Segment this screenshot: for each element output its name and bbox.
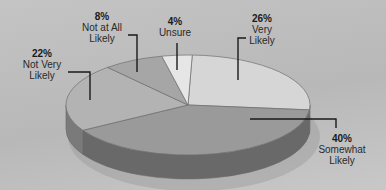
label-pct: 22% bbox=[12, 48, 72, 59]
label-unsure: 4% Unsure bbox=[150, 16, 200, 38]
label-name: Unsure bbox=[150, 27, 200, 38]
pie-chart: 26% Very Likely 40% Somewhat Likely 22% … bbox=[0, 0, 386, 190]
label-not-very-likely: 22% Not Very Likely bbox=[12, 48, 72, 81]
label-somewhat-likely: 40% Somewhat Likely bbox=[312, 133, 372, 166]
label-name: Likely bbox=[70, 33, 134, 44]
label-pct: 26% bbox=[232, 13, 292, 24]
label-pct: 4% bbox=[150, 16, 200, 27]
label-pct: 40% bbox=[312, 133, 372, 144]
pie-slice-0 bbox=[188, 55, 310, 110]
label-name: Very bbox=[232, 24, 292, 35]
label-name: Likely bbox=[312, 155, 372, 166]
label-name: Likely bbox=[232, 35, 292, 46]
label-name: Likely bbox=[12, 70, 72, 81]
label-name: Not Very bbox=[12, 59, 72, 70]
label-very-likely: 26% Very Likely bbox=[232, 13, 292, 46]
label-not-at-all-likely: 8% Not at All Likely bbox=[70, 11, 134, 44]
label-name: Somewhat bbox=[312, 144, 372, 155]
label-name: Not at All bbox=[70, 22, 134, 33]
label-pct: 8% bbox=[70, 11, 134, 22]
